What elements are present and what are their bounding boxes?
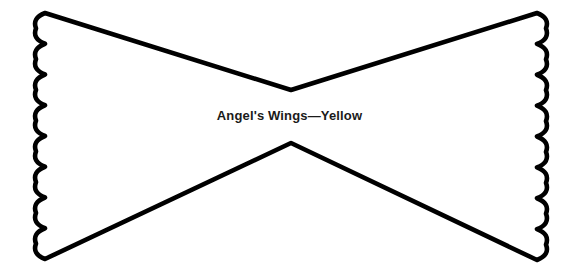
template-canvas: Angel's Wings—Yellow: [0, 0, 579, 278]
angel-wings-outline-svg: [0, 0, 579, 278]
angel-wings-shape-path: [35, 13, 547, 260]
